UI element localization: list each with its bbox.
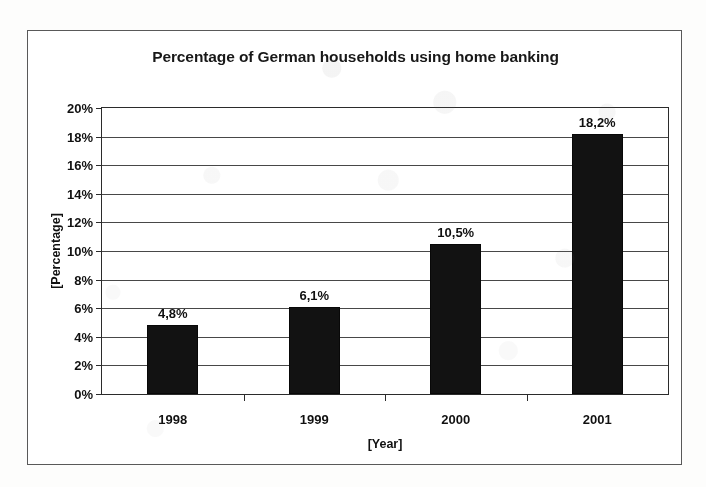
x-axis-tick-label: 1999 [300, 412, 329, 427]
y-axis-tick-label: 20% [67, 101, 93, 116]
y-axis-tick [96, 308, 102, 309]
y-axis-title: [Percentage] [49, 213, 63, 289]
x-axis-tick-label: 1998 [158, 412, 187, 427]
y-axis-tick-label: 16% [67, 158, 93, 173]
y-axis-tick [96, 194, 102, 195]
x-axis-tick [244, 394, 245, 401]
y-axis-tick [96, 222, 102, 223]
plot-area: 0%2%4%6%8%10%12%14%16%18%20% 4,8%6,1%10,… [101, 107, 669, 395]
y-axis-tick [96, 365, 102, 366]
bar: 10,5% [430, 244, 481, 394]
bar: 18,2% [572, 134, 623, 394]
y-axis-tick-label: 12% [67, 215, 93, 230]
x-axis-tick [527, 394, 528, 401]
bar-value-label: 6,1% [299, 288, 329, 303]
x-axis-tick [385, 394, 386, 401]
y-axis-tick [96, 280, 102, 281]
y-axis-tick-label: 2% [74, 358, 93, 373]
y-axis-tick [96, 108, 102, 109]
chart-frame: Percentage of German households using ho… [27, 30, 682, 465]
x-axis-title: [Year] [101, 437, 669, 451]
y-axis-tick [96, 337, 102, 338]
y-axis-tick-label: 6% [74, 301, 93, 316]
bar: 6,1% [289, 307, 340, 394]
y-axis-tick [96, 251, 102, 252]
y-axis-tick [96, 137, 102, 138]
bar-value-label: 10,5% [437, 225, 474, 240]
y-axis-tick [96, 394, 102, 395]
chart-title: Percentage of German households using ho… [28, 48, 683, 66]
x-axis-tick-label: 2000 [441, 412, 470, 427]
y-axis-tick-label: 4% [74, 329, 93, 344]
x-axis-tick-label: 2001 [583, 412, 612, 427]
y-axis-tick-label: 8% [74, 272, 93, 287]
y-axis-tick-label: 10% [67, 244, 93, 259]
bar-value-label: 18,2% [579, 115, 616, 130]
bar: 4,8% [147, 325, 198, 394]
bar-value-label: 4,8% [158, 306, 188, 321]
y-axis-tick-label: 18% [67, 129, 93, 144]
y-axis-tick [96, 165, 102, 166]
y-axis-tick-label: 14% [67, 186, 93, 201]
y-axis-tick-label: 0% [74, 387, 93, 402]
scanned-page: Percentage of German households using ho… [0, 0, 706, 487]
